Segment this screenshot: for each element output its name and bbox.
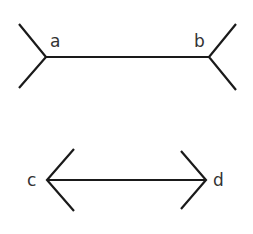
label-a: a — [50, 31, 60, 51]
label-c: c — [27, 170, 36, 190]
figure-fins-out: a b — [19, 24, 236, 90]
fin-left-a — [19, 24, 46, 88]
muller-lyer-diagram: a b c d — [0, 0, 253, 234]
figure-fins-in: c d — [27, 149, 224, 211]
fin-right-b — [209, 24, 236, 90]
label-d: d — [213, 170, 224, 190]
label-b: b — [194, 31, 205, 51]
